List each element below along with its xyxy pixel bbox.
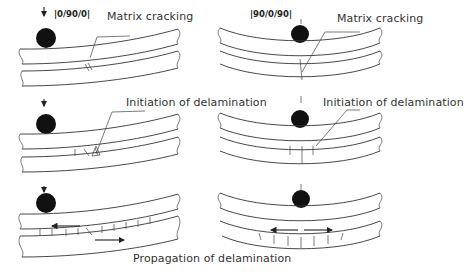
left-layup-label: |0/90/0| — [54, 10, 90, 19]
diagram-graphics — [0, 0, 466, 276]
right-layup-label: |90/0/90| — [250, 10, 292, 19]
right-specimen-row1 — [218, 19, 382, 80]
left-specimen-row3 — [19, 186, 180, 257]
left-row1-label: Matrix cracking — [107, 11, 193, 22]
right-row2-label: Initiation of delamination — [323, 97, 464, 108]
row3-label: Propagation of delamination — [133, 253, 291, 264]
left-row2-label: Initiation of delamination — [126, 97, 267, 108]
right-specimen-row3 — [218, 184, 382, 249]
delamination-diagram: |0/90/0| |90/0/90| Matrix cracking Matri… — [0, 0, 466, 276]
left-specimen-row2 — [19, 99, 180, 172]
right-row1-label: Matrix cracking — [337, 13, 423, 24]
